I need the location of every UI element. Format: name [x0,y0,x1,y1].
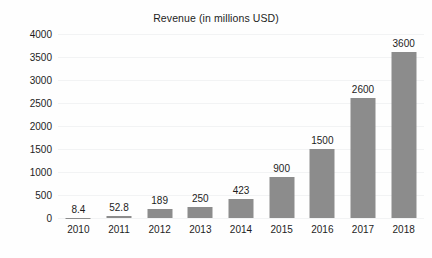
x-axis-tick-label: 2012 [139,224,180,235]
y-axis-tick-label: 3500 [8,52,52,63]
revenue-bar-chart: Revenue (in millions USD) 05001000150020… [0,0,432,258]
x-axis-tick-label: 2011 [99,224,140,235]
y-axis-tick-label: 3000 [8,75,52,86]
x-axis-tick-label: 2014 [221,224,262,235]
y-axis-tick-label: 1500 [8,144,52,155]
x-axis-tick-label: 2016 [302,224,343,235]
y-axis-tick-label: 2000 [8,121,52,132]
x-axis-tick-label: 2018 [383,224,424,235]
x-axis-tick-label: 2017 [343,224,384,235]
y-axis-tick-label: 500 [8,190,52,201]
y-axis-tick-label: 4000 [8,29,52,40]
x-axis-tick-label: 2013 [180,224,221,235]
y-axis-tick-label: 1000 [8,167,52,178]
x-axis-tick-label: 2015 [261,224,302,235]
y-axis: 05001000150020002500300035004000 [6,34,52,218]
y-axis-tick-label: 2500 [8,98,52,109]
x-axis-tick-label: 2010 [58,224,99,235]
y-axis-tick-label: 0 [8,213,52,224]
x-axis: 201020112012201320142015201620172018 [58,0,424,258]
